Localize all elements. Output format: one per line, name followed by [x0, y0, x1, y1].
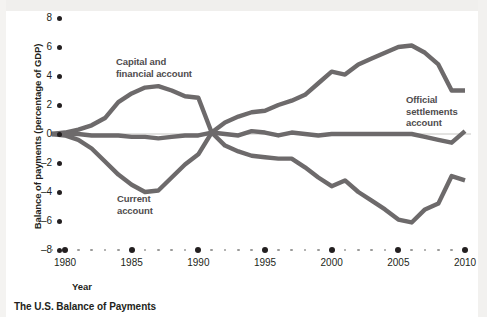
x-tick-dot-minor — [117, 249, 120, 252]
series-label-current-line1: Current — [117, 193, 187, 205]
y-tick-label: 2 — [26, 100, 52, 110]
x-tick-label: 1995 — [245, 258, 285, 268]
chart-plot-area — [0, 0, 487, 317]
y-tick-dot — [57, 45, 62, 50]
y-tick-label: 0 — [26, 129, 52, 139]
x-tick-label: 2000 — [312, 258, 352, 268]
y-tick-label: –4 — [26, 187, 52, 197]
x-tick-dot-major — [62, 247, 68, 253]
y-tick-dot — [57, 74, 62, 79]
series-line — [52, 46, 465, 134]
y-tick-label: –8 — [26, 245, 52, 255]
figure-caption: The U.S. Balance of Payments — [14, 301, 156, 312]
y-tick-label: 4 — [26, 71, 52, 81]
series-label-official-line2: settlements — [406, 106, 484, 118]
y-tick-dot — [57, 16, 62, 21]
series-label-capital-line2: financial account — [116, 68, 236, 80]
x-tick-label: 1980 — [45, 258, 85, 268]
x-axis-title: Year — [52, 281, 112, 292]
x-tick-dot-major — [462, 247, 468, 253]
y-tick-dot — [57, 103, 62, 108]
x-tick-label: 1985 — [112, 258, 152, 268]
y-tick-dot — [57, 190, 62, 195]
x-tick-dot-minor — [237, 249, 240, 252]
y-tick-label: –6 — [26, 216, 52, 226]
y-tick-label: –2 — [26, 158, 52, 168]
figure-root: Balance of payments (percentage of GDP) … — [0, 0, 487, 317]
series-line — [52, 133, 465, 223]
x-tick-dot-minor — [157, 249, 160, 252]
series-label-capital-line1: Capital and — [116, 56, 236, 68]
x-tick-dot-minor — [357, 249, 360, 252]
x-tick-label: 2005 — [378, 258, 418, 268]
x-tick-dot-minor — [77, 249, 80, 252]
y-tick-dot — [57, 219, 62, 224]
series-label-official-line3: account — [406, 117, 484, 129]
series-line — [52, 131, 465, 143]
x-tick-dot-minor — [437, 249, 440, 252]
series-label-current-line2: account — [117, 205, 187, 217]
series-label-official-line1: Official — [406, 94, 484, 106]
y-tick-label: 6 — [26, 42, 52, 52]
series-label-capital-account: Capital and financial account — [116, 56, 236, 79]
y-tick-label: 8 — [26, 13, 52, 23]
x-tick-label: 2010 — [445, 258, 485, 268]
y-tick-dot — [57, 132, 62, 137]
x-tick-dot-major — [129, 247, 135, 253]
x-tick-label: 1990 — [178, 258, 218, 268]
x-tick-dot-major — [262, 247, 268, 253]
x-tick-dot-minor — [277, 249, 280, 252]
x-tick-dot-minor — [317, 249, 320, 252]
series-label-official-settlements-account: Official settlements account — [406, 94, 484, 129]
y-tick-dot — [57, 161, 62, 166]
series-label-current-account: Current account — [117, 193, 187, 216]
x-tick-dot-major — [329, 247, 335, 253]
